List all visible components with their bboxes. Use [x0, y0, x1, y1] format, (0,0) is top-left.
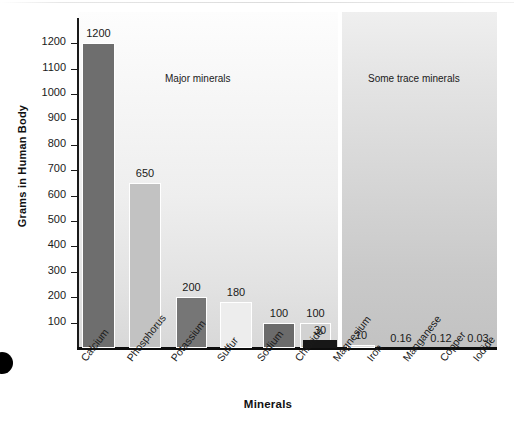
x-axis-title: Minerals: [208, 398, 328, 410]
bar-chart-figure: Major minerals Some trace minerals 10020…: [0, 0, 514, 423]
page-marker-dot: [0, 352, 13, 374]
bars-layer: 120065020018010010030100.160.120.03: [0, 0, 514, 350]
bar-value-label-chloride: 100: [294, 307, 338, 319]
bar-value-label-sulfur: 180: [214, 286, 258, 298]
bar-value-label-potassium: 200: [170, 281, 214, 293]
bar-calcium[interactable]: [82, 43, 115, 348]
bar-value-label-calcium: 1200: [77, 27, 121, 39]
bar-value-label-phosphorus: 650: [123, 167, 167, 179]
